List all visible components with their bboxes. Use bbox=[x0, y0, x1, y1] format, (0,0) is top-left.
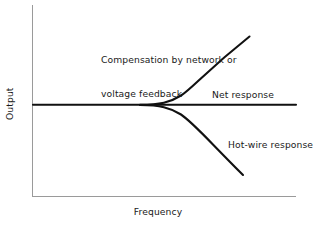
annotation-hot-wire-response: Hot-wire response bbox=[228, 139, 313, 150]
annotation-compensation-line1: Compensation by network or bbox=[101, 54, 237, 65]
annotation-compensation: Compensation by network or voltage feedb… bbox=[101, 31, 237, 122]
annotation-net-response: Net response bbox=[212, 89, 274, 100]
x-axis-label: Frequency bbox=[0, 206, 316, 217]
y-axis-label: Output bbox=[4, 76, 15, 132]
frequency-response-chart: Compensation by network or voltage feedb… bbox=[0, 0, 316, 228]
